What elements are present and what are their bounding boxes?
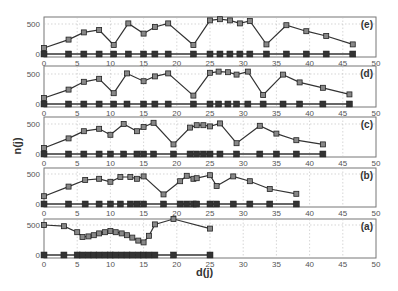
data-marker: [111, 101, 117, 107]
data-marker: [207, 252, 213, 258]
data-marker: [284, 23, 289, 28]
data-marker: [107, 201, 113, 207]
data-marker: [81, 151, 87, 157]
data-marker: [66, 151, 72, 157]
data-marker: [190, 101, 196, 107]
panel-label: (e): [361, 19, 373, 30]
data-marker: [41, 151, 47, 157]
x-tick-label: 35: [272, 209, 281, 218]
data-marker: [267, 187, 272, 192]
data-marker: [227, 18, 232, 23]
data-marker: [194, 176, 199, 181]
x-tick-label: 5: [75, 260, 80, 269]
data-marker: [187, 151, 193, 157]
x-tick-label: 20: [172, 159, 181, 168]
data-marker: [126, 21, 131, 26]
panel-label: (d): [360, 68, 373, 79]
data-marker: [111, 51, 117, 57]
data-marker: [152, 51, 158, 57]
panel-label: (c): [361, 119, 373, 130]
data-marker: [177, 201, 183, 207]
data-marker: [103, 230, 108, 235]
data-marker: [41, 101, 47, 107]
data-marker: [207, 51, 213, 57]
data-marker: [208, 173, 213, 178]
data-marker: [141, 101, 147, 107]
y-tick-label: 0: [36, 50, 41, 59]
data-marker: [323, 51, 329, 57]
x-tick-label: 0: [42, 260, 47, 269]
y-tick-label: 0: [36, 150, 41, 159]
data-marker: [86, 234, 91, 239]
x-tick-label: 0: [42, 209, 47, 218]
data-marker: [97, 76, 102, 81]
y-tick-label: 500: [27, 120, 41, 129]
data-marker: [151, 151, 157, 157]
data-marker: [257, 123, 262, 128]
data-marker: [146, 252, 152, 258]
data-marker: [81, 79, 86, 84]
data-marker: [191, 43, 196, 48]
x-tick-label: 40: [305, 260, 314, 269]
data-marker: [217, 17, 222, 22]
data-marker: [267, 201, 273, 207]
x-tick-label: 50: [372, 209, 381, 218]
data-marker: [108, 179, 113, 184]
data-marker: [125, 233, 130, 238]
data-marker: [274, 131, 279, 136]
data-marker: [91, 233, 96, 238]
y-tick-label: 500: [27, 170, 41, 179]
data-marker: [214, 184, 219, 189]
data-marker: [320, 151, 326, 157]
data-marker: [66, 37, 71, 42]
data-marker: [237, 21, 242, 26]
data-marker: [134, 129, 139, 134]
data-marker: [97, 126, 102, 131]
x-tick-label: 45: [338, 260, 347, 269]
data-marker: [297, 80, 302, 85]
data-marker: [118, 175, 123, 180]
data-marker: [216, 69, 221, 74]
x-tick-label: 10: [106, 209, 115, 218]
data-marker: [127, 201, 133, 207]
data-marker: [166, 71, 171, 76]
y-tick-label: 0: [36, 251, 41, 260]
data-marker: [161, 192, 166, 197]
data-marker: [303, 51, 309, 57]
data-marker: [152, 101, 158, 107]
data-marker: [136, 238, 141, 243]
data-marker: [350, 42, 355, 47]
data-marker: [297, 101, 303, 107]
data-marker: [141, 240, 146, 245]
data-marker: [234, 72, 239, 77]
data-marker: [119, 231, 124, 236]
data-marker: [66, 201, 72, 207]
data-marker: [247, 51, 253, 57]
data-marker: [245, 101, 251, 107]
x-tick-label: 25: [206, 209, 215, 218]
y-axis-label: n(j): [11, 137, 23, 154]
chart-panel: 051015202530354045505000(c): [27, 117, 381, 168]
data-marker: [230, 201, 236, 207]
data-marker: [141, 31, 146, 36]
data-marker: [227, 51, 233, 57]
data-marker: [225, 70, 230, 75]
x-axis-label: d(j): [196, 266, 213, 278]
data-marker: [304, 29, 309, 34]
data-marker: [237, 51, 243, 57]
data-marker: [200, 151, 206, 157]
x-tick-label: 15: [139, 209, 148, 218]
data-marker: [194, 123, 199, 128]
data-marker: [81, 30, 86, 35]
data-marker: [152, 222, 157, 227]
chart-figure: 051015202530354045505000(e)0510152025303…: [0, 0, 398, 291]
data-marker: [165, 101, 171, 107]
chart-panel: 051015202530354045505000(b): [27, 168, 381, 218]
data-marker: [42, 96, 47, 101]
data-marker: [280, 101, 286, 107]
data-marker: [108, 229, 113, 234]
data-marker: [165, 51, 171, 57]
data-marker: [83, 178, 88, 183]
data-marker: [128, 175, 133, 180]
data-marker: [152, 25, 157, 30]
